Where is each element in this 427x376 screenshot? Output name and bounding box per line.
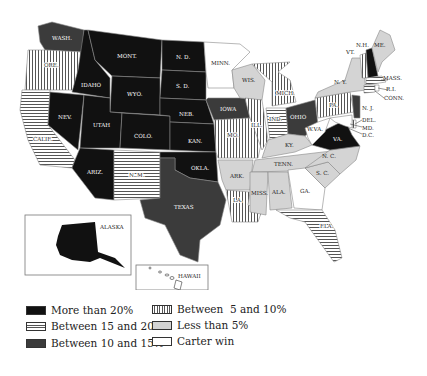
state-nj [352,95,360,118]
label-calif: CALIF. [33,136,52,142]
label-kan: KAN. [188,138,203,144]
label-wash: WASH. [52,35,72,41]
label-nc: N. C. [322,153,336,159]
us-map: WASH. ORE. CALIF. IDAHO NEV. MONT. WYO. … [0,0,427,290]
legend-item-less-than-5: Less than 5% [152,318,248,332]
label-tenn: TENN. [274,161,293,167]
label-miss: MISS. [251,190,268,196]
label-ariz: ARIZ. [86,169,103,175]
label-mass: MASS. [383,75,402,81]
label-vt: VT. [345,49,355,55]
swatch-black [26,306,46,315]
label-ind: IND. [269,116,282,122]
swatch-horizontal-stripes [26,322,46,331]
label-conn: CONN. [384,95,404,101]
label-hawaii: HAWAII [178,273,201,279]
label-md: MD. [362,125,374,131]
label-nd: N. D. [176,54,190,60]
label-nh: N.H. [356,42,369,48]
label-va: VA. [332,136,343,142]
label-wyo: WYO. [127,91,143,97]
label-mont: MONT. [117,53,137,59]
swatch-white [152,337,172,346]
label-nev: NEV. [58,114,72,120]
swatch-dark-gray [26,339,46,348]
label-fla: FLA. [320,223,334,229]
state-fla [276,210,342,262]
label-texas: TEXAS [174,204,194,210]
label-dc: D.C. [362,132,374,138]
label-ohio: OHIO [290,114,307,120]
legend-item-10-15: Between 10 and 15% [26,336,164,350]
label-ill: ILL. [251,122,263,128]
label-sc: S. C. [316,170,329,176]
swatch-vertical-stripes [152,305,172,314]
label-nj: N. J. [362,105,374,112]
state-ny [315,58,366,98]
label-ala: ALA. [271,189,286,195]
label-colo: COLO. [134,133,153,139]
label-la: LA. [233,197,243,203]
label-ky: KY. [285,142,294,148]
state-conn [364,85,375,93]
label-me: ME. [374,42,386,48]
label-okla: OKLA. [191,165,210,171]
label-nm: N. M. [129,172,145,178]
label-ga: GA. [300,188,311,194]
label-alaska: ALASKA [99,224,125,230]
label-mich: MICH. [276,90,295,96]
label-ark: ARK. [229,173,244,179]
label-mo: MO. [227,132,239,138]
label-minn: MINN. [211,60,230,66]
swatch-light-gray [152,321,172,330]
label-wis: WIS. [242,77,256,83]
legend: More than 20% Between 15 and 20% Between… [26,303,426,363]
label-wva: W.VA. [307,126,323,132]
legend-item-carter-win: Carter win [152,334,234,348]
label-ny: N. Y. [334,79,347,85]
state-kan [170,122,216,152]
label-utah: UTAH [93,122,110,128]
label-ri: R.I. [386,86,396,92]
label-ore: ORE. [44,62,59,68]
label-del: DEL. [362,117,376,123]
legend-item-15-20: Between 15 and 20% [26,319,164,333]
label-sd: S. D. [176,83,189,89]
label-idaho: IDAHO [81,82,102,88]
legend-item-5-10: Between 5 and 10% [152,302,286,316]
state-colo [120,113,170,150]
state-ore [25,50,82,90]
label-pa: PA. [329,102,338,108]
label-iowa: IOWA [220,106,237,112]
legend-item-more-than-20: More than 20% [26,303,133,317]
label-neb: NEB. [179,111,194,117]
